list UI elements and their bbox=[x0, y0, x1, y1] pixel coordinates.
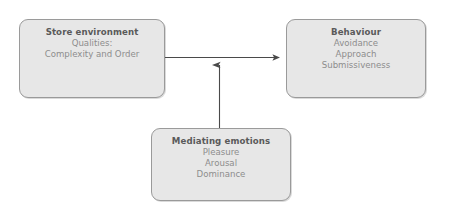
node-mediating-emotions-line-3: Dominance bbox=[197, 169, 246, 180]
node-mediating-emotions-line-1: Pleasure bbox=[203, 147, 240, 158]
node-behaviour[interactable]: Behaviour Avoidance Approach Submissiven… bbox=[286, 19, 426, 98]
diagram-canvas: Store environment Qualities: Complexity … bbox=[0, 0, 451, 211]
node-behaviour-line-1: Avoidance bbox=[334, 38, 378, 49]
node-behaviour-line-2: Approach bbox=[336, 49, 377, 60]
node-behaviour-title: Behaviour bbox=[331, 27, 381, 38]
node-mediating-emotions-line-2: Arousal bbox=[205, 158, 237, 169]
node-mediating-emotions[interactable]: Mediating emotions Pleasure Arousal Domi… bbox=[151, 128, 291, 201]
node-behaviour-line-3: Submissiveness bbox=[322, 60, 391, 71]
node-store-environment[interactable]: Store environment Qualities: Complexity … bbox=[19, 19, 165, 98]
node-mediating-emotions-title: Mediating emotions bbox=[172, 136, 270, 147]
node-store-environment-title: Store environment bbox=[46, 27, 139, 38]
node-store-environment-line-2: Complexity and Order bbox=[45, 49, 140, 60]
node-store-environment-line-1: Qualities: bbox=[72, 38, 113, 49]
